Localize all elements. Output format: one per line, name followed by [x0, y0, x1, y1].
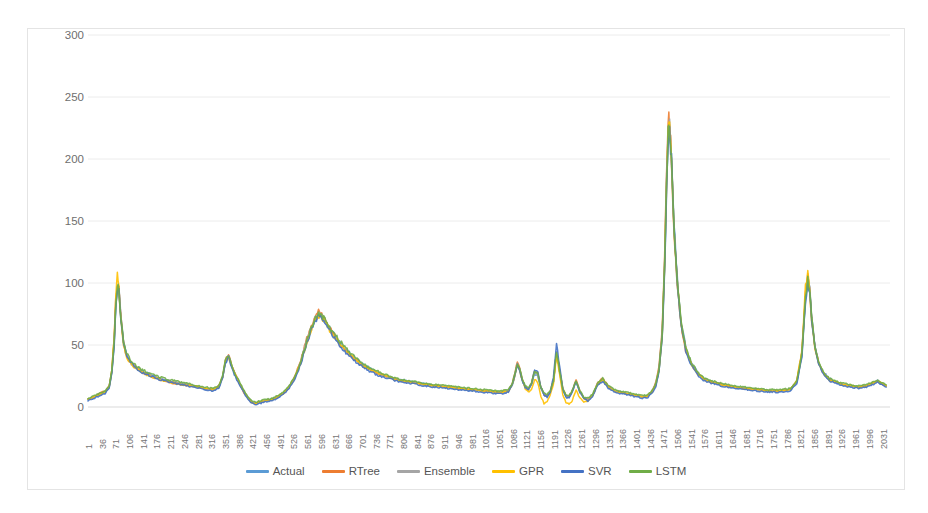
x-tick-label: 526 — [289, 434, 299, 449]
y-axis-tick-labels: 050100150200250300 — [28, 29, 84, 489]
series-line-actual — [88, 125, 886, 404]
legend-swatch-icon — [397, 470, 420, 473]
x-tick-label: 1926 — [837, 429, 847, 449]
x-tick-label: 771 — [385, 434, 395, 449]
plot-area — [88, 35, 890, 407]
legend-item-actual[interactable]: Actual — [246, 465, 305, 477]
x-tick-label: 421 — [248, 434, 258, 449]
series-line-ensemble — [88, 119, 886, 403]
x-tick-label: 631 — [331, 434, 341, 449]
x-tick-label: 1856 — [810, 429, 820, 449]
x-tick-label: 1226 — [563, 429, 573, 449]
y-tick-label: 100 — [50, 277, 84, 289]
series-line-gpr — [88, 122, 886, 404]
y-tick-label: 250 — [50, 91, 84, 103]
x-tick-label: 1 — [84, 444, 94, 449]
y-tick-label: 50 — [50, 339, 84, 351]
x-tick-label: 1576 — [700, 429, 710, 449]
x-tick-label: 1436 — [646, 429, 656, 449]
x-tick-label: 946 — [454, 434, 464, 449]
x-tick-label: 666 — [344, 434, 354, 449]
x-tick-label: 1786 — [783, 429, 793, 449]
legend-label: LSTM — [656, 465, 687, 477]
legend-label: Actual — [273, 465, 305, 477]
x-tick-label: 2031 — [879, 429, 889, 449]
x-tick-label: 1681 — [742, 429, 752, 449]
x-tick-label: 71 — [111, 439, 121, 449]
x-tick-label: 1366 — [618, 429, 628, 449]
x-tick-label: 1646 — [728, 429, 738, 449]
x-tick-label: 1191 — [550, 430, 560, 449]
chart-plot-wrapper: Dam Inflow Prediction (cubic meter /s) 0… — [28, 29, 904, 489]
x-tick-label: 1016 — [481, 429, 491, 449]
legend-swatch-icon — [629, 470, 652, 473]
series-line-rtree — [88, 112, 886, 404]
x-tick-label: 1541 — [687, 429, 697, 449]
data-series-layer — [88, 35, 890, 407]
legend-swatch-icon — [246, 470, 269, 473]
x-tick-label: 561 — [303, 434, 313, 449]
x-tick-label: 316 — [207, 434, 217, 449]
x-tick-label: 806 — [399, 434, 409, 449]
x-tick-label: 876 — [426, 434, 436, 449]
x-tick-label: 1401 — [632, 429, 642, 449]
x-tick-label: 176 — [152, 434, 162, 449]
x-tick-label: 1156 — [536, 430, 546, 449]
legend-label: Ensemble — [424, 465, 475, 477]
x-tick-label: 1611 — [714, 430, 724, 449]
x-tick-label: 1961 — [851, 429, 861, 449]
series-line-lstm — [88, 125, 886, 402]
x-tick-label: 1051 — [495, 429, 505, 449]
legend-item-ensemble[interactable]: Ensemble — [397, 465, 475, 477]
chart-figure: Dam Inflow Prediction (cubic meter /s) 0… — [27, 28, 905, 490]
x-tick-label: 1296 — [591, 429, 601, 449]
x-tick-label: 1331 — [605, 429, 615, 449]
x-tick-label: 246 — [180, 434, 190, 449]
legend-label: GPR — [519, 465, 544, 477]
x-tick-label: 1821 — [796, 429, 806, 449]
y-tick-label: 150 — [50, 215, 84, 227]
legend-item-gpr[interactable]: GPR — [492, 465, 544, 477]
x-tick-label: 1121 — [522, 430, 532, 449]
y-tick-label: 300 — [50, 29, 84, 41]
x-tick-label: 211 — [166, 435, 176, 449]
x-tick-label: 106 — [125, 434, 135, 449]
x-tick-label: 1996 — [865, 429, 875, 449]
legend-item-svr[interactable]: SVR — [561, 465, 612, 477]
y-tick-label: 200 — [50, 153, 84, 165]
x-tick-label: 36 — [98, 439, 108, 449]
x-tick-label: 491 — [276, 434, 286, 449]
x-tick-label: 736 — [372, 434, 382, 449]
legend-label: SVR — [588, 465, 612, 477]
x-tick-label: 701 — [358, 434, 368, 449]
legend-item-rtree[interactable]: RTree — [322, 465, 380, 477]
x-tick-label: 1891 — [824, 429, 834, 449]
x-tick-label: 911 — [440, 435, 450, 449]
x-tick-label: 456 — [262, 434, 272, 449]
legend-label: RTree — [349, 465, 380, 477]
x-tick-label: 841 — [413, 434, 423, 449]
x-tick-label: 1751 — [769, 429, 779, 449]
series-line-svr — [88, 127, 886, 405]
x-tick-label: 386 — [235, 434, 245, 449]
x-tick-label: 141 — [139, 434, 149, 449]
x-tick-label: 1506 — [673, 429, 683, 449]
legend-swatch-icon — [492, 470, 515, 473]
chart-legend: ActualRTreeEnsembleGPRSVRLSTM — [28, 461, 904, 481]
x-tick-label: 1261 — [577, 429, 587, 449]
x-axis-tick-labels: 1367110614117621124628131635138642145649… — [88, 407, 890, 449]
x-tick-label: 981 — [468, 434, 478, 449]
legend-swatch-icon — [561, 470, 584, 473]
x-tick-label: 351 — [221, 434, 231, 449]
x-tick-label: 596 — [317, 434, 327, 449]
legend-swatch-icon — [322, 470, 345, 473]
x-tick-label: 1086 — [509, 429, 519, 449]
x-tick-label: 1716 — [755, 429, 765, 449]
legend-item-lstm[interactable]: LSTM — [629, 465, 687, 477]
x-tick-label: 1471 — [659, 429, 669, 449]
x-tick-label: 281 — [194, 434, 204, 449]
y-tick-label: 0 — [50, 401, 84, 413]
